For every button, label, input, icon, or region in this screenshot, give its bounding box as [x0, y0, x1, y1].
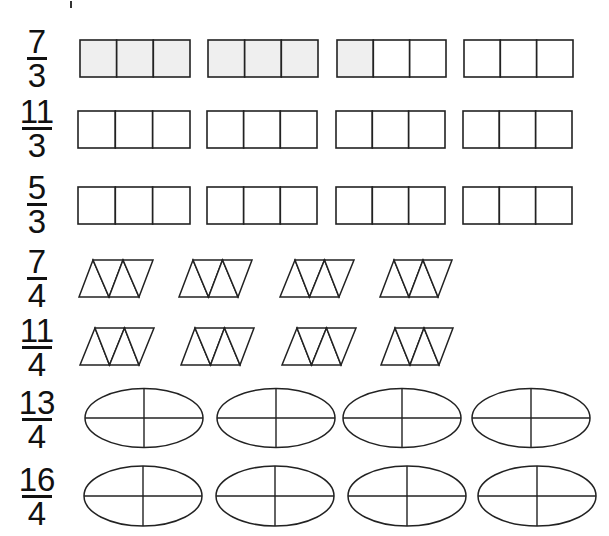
parallelogram-triangles-shape	[380, 260, 452, 297]
row-11-3-shapes	[78, 111, 572, 148]
unshaded-part	[409, 187, 445, 224]
parallelogram-triangles-shape	[181, 328, 254, 365]
ellipse-quarters-shape	[84, 466, 202, 526]
unshaded-part	[536, 111, 572, 148]
shaded-part	[281, 40, 318, 77]
unshaded-part	[207, 187, 244, 224]
ellipse-quarters-shape	[216, 466, 334, 526]
row-16-4-shapes	[84, 466, 596, 526]
unshaded-part	[207, 111, 244, 148]
unshaded-part	[537, 40, 573, 77]
rectangle-thirds-shape	[78, 111, 190, 148]
parallelogram-triangles-shape	[381, 328, 453, 365]
ellipse-quarters-shape	[217, 389, 335, 448]
unshaded-part	[153, 187, 190, 224]
ellipse-quarters-shape	[478, 466, 596, 526]
unshaded-part	[464, 40, 500, 77]
row-5-3-shapes	[78, 187, 572, 224]
rectangle-thirds-shape	[464, 40, 573, 77]
shaded-part	[153, 40, 190, 77]
shaded-part	[80, 40, 117, 77]
rectangle-thirds-shape	[207, 187, 317, 224]
unshaded-part	[372, 187, 408, 224]
unshaded-part	[78, 111, 115, 148]
row-7-3-shapes	[80, 40, 573, 77]
rectangle-thirds-shape	[337, 40, 446, 77]
ellipse-quarters-shape	[85, 389, 203, 448]
unshaded-part	[500, 40, 536, 77]
rectangle-thirds-shape	[463, 187, 572, 224]
parallelogram-triangles-shape	[179, 260, 252, 297]
rectangle-thirds-shape	[336, 187, 445, 224]
unshaded-part	[244, 111, 281, 148]
unshaded-part	[115, 111, 152, 148]
shaded-part	[117, 40, 154, 77]
row-7-4-shapes	[79, 260, 452, 297]
unshaded-part	[336, 187, 372, 224]
rectangle-thirds-shape	[207, 111, 317, 148]
rectangle-thirds-shape	[463, 111, 572, 148]
rectangle-thirds-shape	[208, 40, 318, 77]
shaded-part	[208, 40, 245, 77]
rectangle-thirds-shape	[336, 111, 445, 148]
parallelogram-triangles-shape	[282, 328, 356, 365]
unshaded-part	[115, 187, 152, 224]
fraction-shapes-diagram	[0, 0, 609, 536]
unshaded-part	[336, 111, 372, 148]
unshaded-part	[280, 187, 317, 224]
row-13-4-shapes	[85, 389, 590, 448]
unshaded-part	[373, 40, 409, 77]
unshaded-part	[153, 111, 190, 148]
shaded-part	[245, 40, 282, 77]
unshaded-part	[463, 111, 499, 148]
unshaded-part	[280, 111, 317, 148]
row-11-4-shapes	[80, 328, 453, 365]
parallelogram-triangles-shape	[280, 260, 354, 297]
unshaded-part	[244, 187, 281, 224]
rectangle-thirds-shape	[78, 187, 190, 224]
parallelogram-triangles-shape	[80, 328, 154, 365]
unshaded-part	[499, 187, 535, 224]
unshaded-part	[409, 111, 445, 148]
ellipse-quarters-shape	[348, 466, 466, 526]
unshaded-part	[410, 40, 446, 77]
ellipse-quarters-shape	[343, 389, 461, 448]
unshaded-part	[78, 187, 115, 224]
ellipse-quarters-shape	[472, 389, 590, 448]
unshaded-part	[463, 187, 499, 224]
shaded-part	[337, 40, 373, 77]
unshaded-part	[536, 187, 572, 224]
rectangle-thirds-shape	[80, 40, 190, 77]
unshaded-part	[499, 111, 535, 148]
parallelogram-triangles-shape	[79, 260, 153, 297]
unshaded-part	[372, 111, 408, 148]
